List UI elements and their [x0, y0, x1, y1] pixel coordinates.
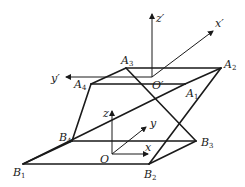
label-b2: B2 [143, 168, 157, 182]
label-a3: A3 [120, 54, 133, 68]
label-z-prime: z′ [155, 12, 165, 25]
edge-a3-a4 [91, 68, 126, 84]
label-x: x [145, 141, 152, 154]
label-z: z [102, 107, 109, 120]
label-a4: A4 [73, 78, 87, 92]
x-prime-axis [152, 31, 213, 77]
label-a1: A1 [185, 87, 198, 101]
label-y-prime: y′ [50, 72, 60, 85]
lower-base [23, 141, 196, 164]
label-b1: B1 [12, 166, 26, 180]
parallel-platform-diagram: A3 A2 A4 A1 B4 B3 B1 B2 z′ x′ y′ O′ z y … [0, 0, 245, 187]
label-a2: A2 [223, 58, 236, 72]
label-b4: B4 [58, 131, 72, 145]
label-b3: B3 [200, 136, 214, 150]
edge-b2-b3 [149, 141, 196, 164]
label-x-prime: x′ [215, 17, 224, 30]
leg-a1-b1 [23, 84, 185, 164]
label-o-prime: O′ [152, 79, 164, 92]
label-o: O [100, 153, 109, 166]
label-y: y [149, 117, 157, 130]
